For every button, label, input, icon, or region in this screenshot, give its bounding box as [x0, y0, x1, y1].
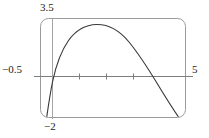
- ymax-label: 3.5: [40, 2, 54, 13]
- ymin-label: −2: [44, 121, 56, 132]
- graph-figure: 3.5 −0.5 5 −2: [0, 0, 209, 138]
- viewing-window-frame: [41, 19, 186, 118]
- xmax-label: 5: [192, 64, 198, 75]
- graph-canvas: [0, 0, 209, 138]
- xmin-label: −0.5: [2, 64, 22, 75]
